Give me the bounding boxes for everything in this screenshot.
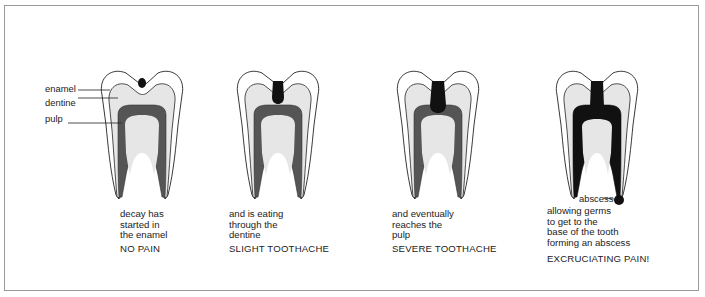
- label-enamel: enamel: [45, 83, 76, 94]
- tooth-stage-2: [237, 71, 318, 199]
- label-abscess: abscess: [579, 193, 613, 204]
- label-dentine: dentine: [45, 97, 76, 108]
- stage-2-pain-level: SLIGHT TOOTHACHE: [229, 243, 329, 254]
- stage-2-caption: and is eating through the dentine: [229, 209, 283, 241]
- stage-4-pain-level: EXCRUCIATING PAIN!: [547, 253, 649, 264]
- label-pulp: pulp: [45, 113, 63, 124]
- stage-3-pain-level: SEVERE TOOTHACHE: [392, 243, 497, 254]
- tooth-stage-1: [101, 71, 182, 199]
- tooth-stage-3: [397, 71, 478, 199]
- stage-1-caption: decay has started in the enamel: [120, 209, 167, 241]
- stage-1-pain-level: NO PAIN: [120, 243, 160, 254]
- stage-3-caption: and eventually reaches the pulp: [392, 209, 454, 241]
- stage-4-caption: allowing germs to get to the base of the…: [547, 206, 630, 248]
- tooth-stage-4: [556, 71, 637, 205]
